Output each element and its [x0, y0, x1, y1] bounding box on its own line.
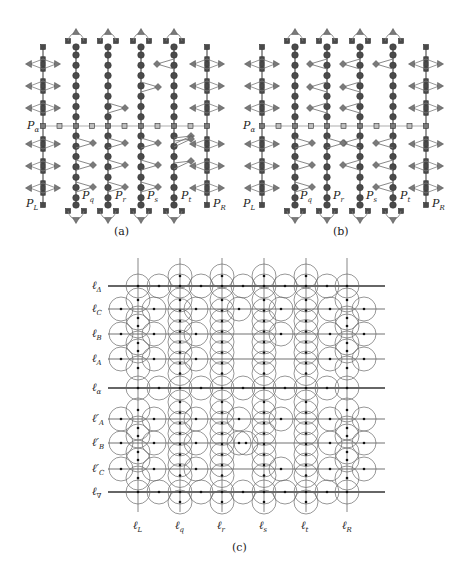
disk-center	[120, 468, 123, 471]
circle-node	[105, 103, 112, 110]
triangle-node	[245, 163, 251, 170]
disk-center	[346, 299, 349, 302]
disk-center	[179, 474, 182, 477]
disk-center	[179, 330, 182, 333]
square-node	[424, 186, 429, 191]
square-node	[205, 62, 210, 67]
circle-node	[357, 72, 364, 79]
disk-center	[329, 418, 332, 421]
circle-node	[73, 174, 80, 181]
circle-node	[390, 114, 397, 121]
disk-center	[280, 468, 283, 471]
square-node	[424, 142, 429, 147]
disk-center	[195, 358, 198, 361]
disk-center	[263, 299, 266, 302]
disk-center	[221, 387, 224, 390]
disk-center	[346, 325, 349, 328]
triangle-node	[190, 61, 196, 68]
triangle-node	[55, 163, 61, 170]
disk-center	[158, 387, 161, 390]
circle-node	[292, 103, 299, 110]
disk-center	[158, 491, 161, 494]
panel-b-row-label-alpha: Pα	[243, 120, 255, 134]
circle-node	[357, 52, 364, 59]
disk-center	[179, 309, 182, 312]
disk-center	[221, 432, 224, 435]
panel-a-col-label-r: Pr	[115, 190, 126, 204]
circle-node	[138, 103, 145, 110]
triangle-node	[438, 163, 444, 170]
circle-node	[138, 143, 145, 150]
triangle-node	[26, 83, 32, 90]
circle-node	[73, 83, 80, 90]
disk-center	[158, 285, 161, 288]
circle-node	[390, 93, 397, 100]
disk-center	[238, 442, 241, 445]
disk-center	[305, 275, 308, 278]
circle-node	[73, 52, 80, 59]
disk-center	[153, 333, 156, 336]
triangle-node	[73, 218, 80, 224]
circle-node	[138, 195, 145, 202]
panel-c-vline-label-r: ℓr	[217, 520, 225, 534]
disk-center	[221, 309, 224, 312]
circle-node	[357, 83, 364, 90]
panel-c-vline-label-q: ℓq	[175, 520, 184, 534]
disk-center	[305, 432, 308, 435]
disk-center	[346, 435, 349, 438]
disk-center	[179, 464, 182, 467]
disk-center	[221, 464, 224, 467]
circle-node	[138, 83, 145, 90]
disk-center	[238, 308, 241, 311]
panel-c-hline-label-delta: ℓΔ	[92, 280, 102, 294]
alpha-square-node	[309, 124, 314, 129]
circle-node	[357, 143, 364, 150]
alpha-square-node	[407, 124, 412, 129]
disk-center	[137, 409, 140, 412]
square-node	[41, 142, 46, 147]
triangle-node	[219, 163, 225, 170]
disk-center	[153, 442, 156, 445]
disk-center	[305, 330, 308, 333]
panel-a-col-label-L: PL	[26, 198, 38, 212]
circle-node	[357, 184, 364, 191]
diamond-node	[373, 140, 380, 147]
circle-node	[390, 52, 397, 59]
panel-b-col-label-t: Pt	[400, 190, 410, 204]
panel-a-caption: (a)	[114, 226, 129, 237]
circle-node	[171, 133, 178, 140]
disk-center	[179, 275, 182, 278]
disk-center	[221, 501, 224, 504]
square-node	[41, 45, 46, 50]
disk-center	[179, 443, 182, 446]
panel-c-hline-label-B-prime: ℓ′B	[92, 437, 104, 451]
diamond-node	[307, 61, 314, 68]
circle-node	[390, 202, 397, 209]
circle-node	[324, 164, 331, 171]
triangle-node	[274, 163, 280, 170]
panel-b-col-label-r: Pr	[333, 190, 344, 204]
disk-center	[305, 443, 308, 446]
circle-node	[105, 62, 112, 69]
disk-center	[137, 451, 140, 454]
panel-c-hline-label-B: ℓB	[92, 328, 102, 342]
diamond-node	[122, 162, 129, 169]
disk-center	[363, 442, 366, 445]
circle-node	[357, 114, 364, 121]
disk-center	[263, 432, 266, 435]
triangle-node	[438, 185, 444, 192]
panel-c-hline-label-C: ℓC	[92, 303, 102, 317]
circle-node	[357, 195, 364, 202]
square-node	[260, 203, 265, 208]
circle-node	[105, 153, 112, 160]
disk-center	[221, 443, 224, 446]
triangle-node	[190, 105, 196, 112]
disk-center	[263, 320, 266, 323]
panel-a-col-label-s: Ps	[147, 190, 158, 204]
panel-b-col-label-L: PL	[243, 198, 255, 212]
square-node	[260, 106, 265, 111]
disk-center	[326, 387, 329, 390]
square-node	[41, 164, 46, 169]
circle-node	[324, 114, 331, 121]
disk-center	[195, 333, 198, 336]
